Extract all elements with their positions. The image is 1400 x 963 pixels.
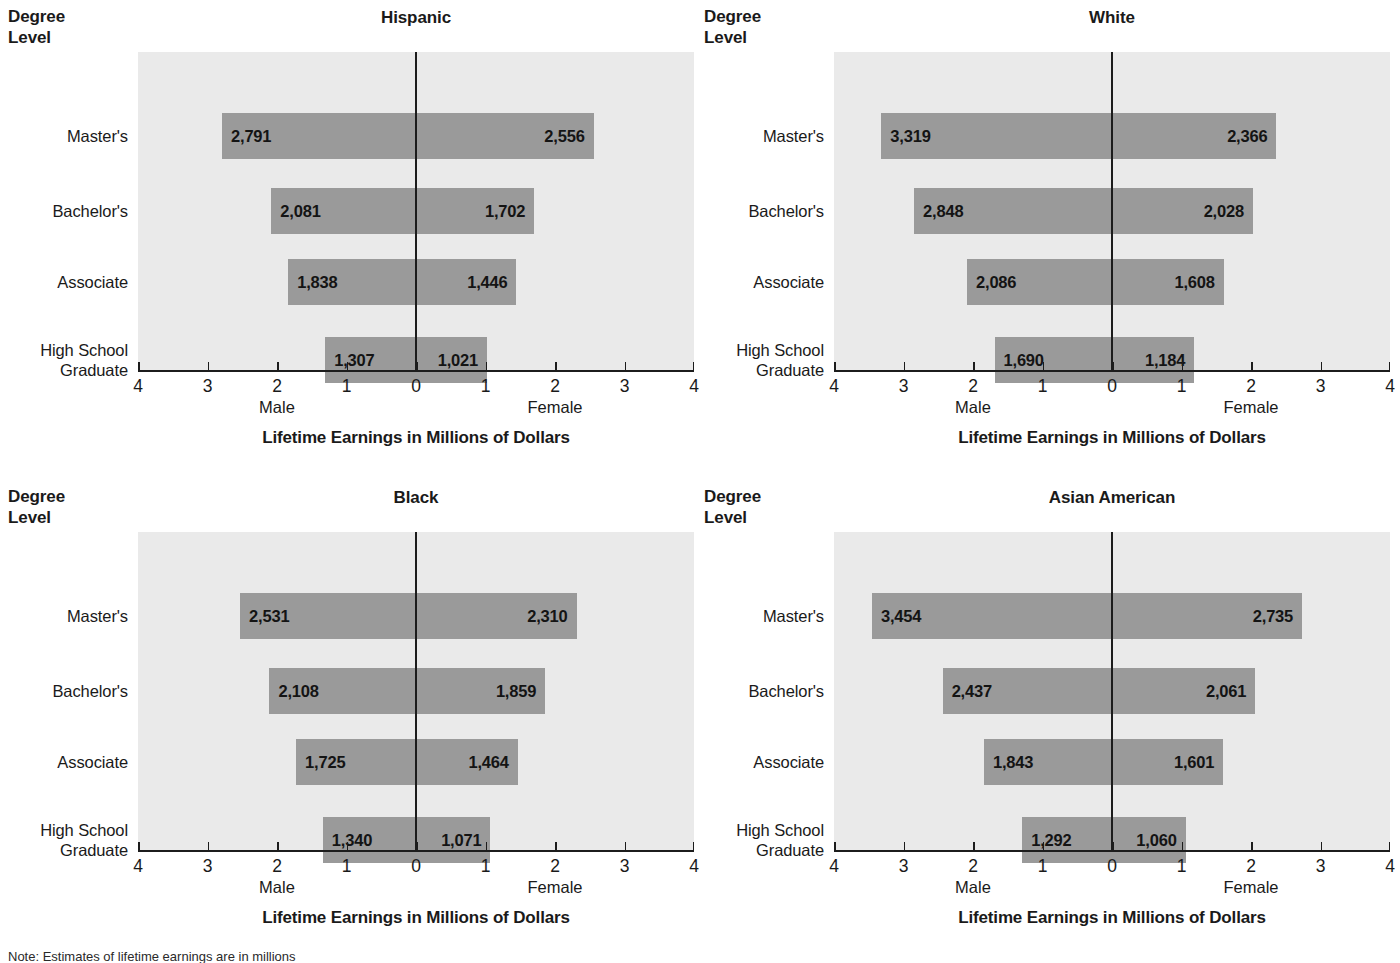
x-axis-tick-label: 4 <box>1370 376 1400 397</box>
degree-level-stub-head: DegreeLevel <box>8 6 130 48</box>
category-label-line1: High School <box>736 341 824 359</box>
female-side-label: Female <box>495 878 615 897</box>
category-label-line1: Bachelor's <box>748 202 824 220</box>
bar-female: 2,061 <box>1112 668 1255 714</box>
x-axis-tick-label: 3 <box>884 856 924 877</box>
x-axis-tick <box>486 842 488 850</box>
x-axis-tick-label: 3 <box>1301 856 1341 877</box>
x-axis-tick-label: 2 <box>1231 376 1271 397</box>
x-axis-tick <box>208 362 210 370</box>
category-label: Master's <box>644 126 824 146</box>
x-axis-tick <box>625 362 627 370</box>
category-label: Bachelor's <box>0 681 128 701</box>
category-label-line1: Bachelor's <box>52 682 128 700</box>
stub-head-line2: Level <box>8 507 130 528</box>
bar-male: 2,086 <box>967 259 1112 305</box>
bar-female: 2,366 <box>1112 113 1276 159</box>
category-label: Bachelor's <box>0 201 128 221</box>
category-label-line1: High School <box>40 341 128 359</box>
bar-female: 2,735 <box>1112 593 1302 639</box>
bar-value-female: 1,608 <box>1174 273 1214 292</box>
bar-value-female: 2,735 <box>1253 607 1293 626</box>
x-axis-tick-label: 2 <box>257 856 297 877</box>
bar-value-female: 1,071 <box>441 831 481 850</box>
stub-head-line1: Degree <box>8 7 65 26</box>
x-axis-tick-label: 4 <box>118 376 158 397</box>
category-label-line1: Master's <box>763 607 824 625</box>
bar-value-male: 2,791 <box>231 127 271 146</box>
bar-male: 2,081 <box>271 188 416 234</box>
bar-value-female: 2,556 <box>544 127 584 146</box>
x-axis-tick-label: 1 <box>466 376 506 397</box>
bar-male: 2,848 <box>914 188 1112 234</box>
category-label: Master's <box>644 606 824 626</box>
bar-value-female: 1,601 <box>1174 753 1214 772</box>
chart-panel-white: DegreeLevelWhite3,3192,3662,8482,0282,08… <box>696 0 1392 480</box>
category-label-line2: Graduate <box>644 360 824 380</box>
x-axis-title: Lifetime Earnings in Millions of Dollars <box>834 908 1390 928</box>
x-axis-line <box>834 850 1390 852</box>
zero-axis-line <box>1111 52 1113 370</box>
category-label-line1: Associate <box>57 753 128 771</box>
degree-level-stub-head: DegreeLevel <box>8 486 130 528</box>
x-axis-tick <box>277 842 279 850</box>
category-label-line1: High School <box>40 821 128 839</box>
x-axis-tick-label: 1 <box>1162 856 1202 877</box>
category-label-line1: Bachelor's <box>52 202 128 220</box>
x-axis-tick-label: 2 <box>535 376 575 397</box>
bar-value-female: 1,446 <box>467 273 507 292</box>
x-axis: 432101234 <box>138 370 694 371</box>
male-side-label: Male <box>913 398 1033 417</box>
small-multiples-grid: DegreeLevelHispanic2,7912,5562,0811,7021… <box>0 0 1392 935</box>
bar-value-male: 2,848 <box>923 202 963 221</box>
x-axis-tick <box>555 362 557 370</box>
x-axis-title: Lifetime Earnings in Millions of Dollars <box>834 428 1390 448</box>
figure-footnote: Note: Estimates of lifetime earnings are… <box>8 948 1378 963</box>
stub-head-line2: Level <box>8 27 130 48</box>
category-label: Master's <box>0 606 128 626</box>
bar-value-female: 1,702 <box>485 202 525 221</box>
x-axis-tick-label: 3 <box>1301 376 1341 397</box>
panel-title: Hispanic <box>138 8 694 28</box>
category-label-line2: Graduate <box>0 840 128 860</box>
x-axis-tick <box>1389 842 1391 850</box>
x-axis-tick <box>277 362 279 370</box>
category-label-line1: High School <box>736 821 824 839</box>
bar-female: 1,446 <box>416 259 516 305</box>
bar-female: 2,556 <box>416 113 594 159</box>
x-axis-tick <box>486 362 488 370</box>
bar-value-male: 1,340 <box>332 831 372 850</box>
x-axis-tick-label: 3 <box>884 376 924 397</box>
bar-value-male: 3,319 <box>890 127 930 146</box>
zero-axis-line <box>415 52 417 370</box>
x-axis: 432101234 <box>834 370 1390 371</box>
plot-area: 2,5312,3102,1081,8591,7251,4641,3401,071 <box>138 532 694 850</box>
bar-value-female: 1,859 <box>496 682 536 701</box>
x-axis-tick-label: 0 <box>396 856 436 877</box>
bar-female: 1,464 <box>416 739 518 785</box>
x-axis-tick-label: 4 <box>814 856 854 877</box>
x-axis-line <box>834 370 1390 372</box>
x-axis-tick <box>1043 842 1045 850</box>
x-axis-tick <box>1389 362 1391 370</box>
category-label-line2: Graduate <box>0 360 128 380</box>
x-axis-tick <box>625 842 627 850</box>
category-label: Associate <box>0 752 128 772</box>
degree-level-stub-head: DegreeLevel <box>704 6 826 48</box>
x-axis-tick-label: 1 <box>327 376 367 397</box>
bar-value-male: 1,690 <box>1004 351 1044 370</box>
category-label: Master's <box>0 126 128 146</box>
x-axis-tick-label: 2 <box>257 376 297 397</box>
bar-female: 2,310 <box>416 593 577 639</box>
x-axis-tick-label: 1 <box>1023 856 1063 877</box>
x-axis-tick-label: 2 <box>953 376 993 397</box>
x-axis-tick-label: 2 <box>535 856 575 877</box>
x-axis-tick <box>1321 842 1323 850</box>
x-axis-tick <box>1112 842 1114 850</box>
x-axis-tick-label: 0 <box>1092 856 1132 877</box>
bar-male: 2,531 <box>240 593 416 639</box>
x-axis-tick <box>1043 362 1045 370</box>
male-side-label: Male <box>913 878 1033 897</box>
x-axis-tick-label: 2 <box>953 856 993 877</box>
x-axis-tick <box>1321 362 1323 370</box>
